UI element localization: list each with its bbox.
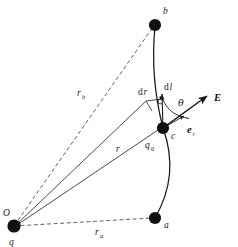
point-marker-c — [157, 122, 169, 134]
right-angle-fill-icon — [160, 96, 163, 99]
label-r: r — [116, 144, 120, 154]
line-r-vector — [17, 128, 161, 225]
label-origin-O: O — [3, 208, 10, 218]
theta-arc-icon — [163, 99, 189, 119]
label-dl: d l — [164, 82, 173, 92]
vector-E — [163, 96, 207, 128]
label-theta: θ — [178, 97, 184, 108]
label-ra: r a — [95, 227, 103, 239]
line-o-to-dr — [17, 101, 146, 224]
diagram-canvas: b c a O q q 0 r r b r a d r d l — [0, 0, 238, 247]
label-point-b: b — [163, 6, 168, 16]
physics-diagram: b c a O q q 0 r r b r a d r d l — [0, 0, 238, 247]
svg-text:r: r — [144, 87, 148, 97]
svg-text:e: e — [187, 124, 192, 135]
label-rb: r b — [77, 88, 85, 100]
label-test-charge-q0: q 0 — [145, 140, 154, 152]
svg-text:q: q — [145, 140, 150, 150]
svg-text:0: 0 — [151, 145, 154, 152]
point-marker-b — [149, 19, 161, 31]
label-E-field: E — [213, 92, 221, 103]
label-point-a: a — [164, 220, 169, 230]
svg-text:r: r — [77, 88, 81, 98]
svg-text:d: d — [164, 82, 169, 92]
segment-dr-connector — [146, 101, 152, 111]
svg-text:d: d — [138, 87, 143, 97]
label-point-c: c — [171, 131, 176, 141]
point-marker-a — [149, 212, 161, 224]
label-er-unit-vector: e r — [187, 124, 196, 137]
path-arc-a-c-b — [154, 26, 170, 218]
svg-text:a: a — [100, 232, 103, 239]
line-ra-dashed — [14, 218, 152, 226]
label-source-charge-q: q — [9, 237, 14, 247]
line-rb-dashed — [14, 27, 153, 226]
svg-text:b: b — [82, 93, 85, 100]
svg-text:r: r — [95, 227, 99, 237]
point-marker-q-origin — [7, 219, 20, 232]
svg-text:l: l — [170, 82, 173, 92]
svg-text:r: r — [193, 130, 196, 137]
label-dr: d r — [138, 87, 148, 97]
